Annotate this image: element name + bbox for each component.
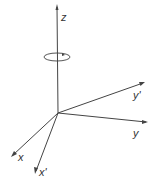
z-label: z: [60, 11, 67, 23]
y-prime-label: y': [132, 89, 142, 101]
y-prime-arrowhead-icon: [139, 82, 145, 86]
z-arrowhead-icon: [56, 4, 59, 10]
x-label: x: [17, 151, 24, 163]
x-prime-label: x': [38, 166, 48, 178]
y-prime-axis: [58, 83, 143, 113]
y-arrowhead-icon: [142, 120, 148, 124]
x-prime-axis: [36, 113, 58, 171]
y-label: y: [132, 127, 140, 139]
z-axis: [57, 7, 58, 113]
y-axis: [58, 113, 146, 122]
x-prime-arrowhead-icon: [34, 167, 38, 174]
axes-diagram: z y' y x x': [0, 0, 159, 181]
x-axis: [13, 113, 58, 155]
